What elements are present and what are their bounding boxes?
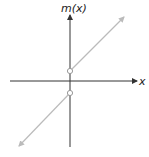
function-graph: m(x) x xyxy=(0,0,149,157)
upper-segment xyxy=(70,17,124,71)
lower-segment xyxy=(19,93,70,146)
x-axis-label: x xyxy=(138,75,146,88)
open-point-upper xyxy=(67,68,72,73)
open-point-lower xyxy=(67,90,72,95)
y-axis-label: m(x) xyxy=(61,2,87,15)
